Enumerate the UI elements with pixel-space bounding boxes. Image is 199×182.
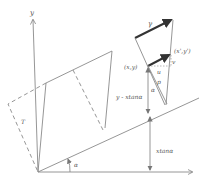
inclined-axis	[38, 98, 199, 172]
sheared-shape	[38, 51, 112, 172]
y-minus-label: y - xtanα	[115, 93, 143, 101]
y-axis	[33, 20, 38, 172]
t-label: T	[21, 118, 26, 125]
p-label: p	[157, 78, 161, 86]
gamma-vector	[135, 20, 171, 38]
y-axis-label: y	[29, 9, 35, 17]
alpha-arc	[68, 159, 70, 172]
original-shape-left	[8, 83, 46, 172]
point-label: (x,y)	[124, 63, 138, 71]
original-shape-right	[73, 70, 103, 130]
gamma-label: γ	[148, 20, 153, 28]
alpha-label: α	[74, 161, 78, 168]
shear-diagram: y α T γ (x,y) (x',y') u v p α y - xtanα …	[0, 0, 199, 182]
displacement-vector	[148, 55, 169, 66]
alpha-small-label: α	[151, 86, 155, 93]
u-label: u	[157, 68, 161, 75]
x-tan-label: xtanα	[156, 147, 173, 154]
point-prime-label: (x',y')	[174, 47, 191, 55]
v-label: v	[172, 58, 176, 65]
